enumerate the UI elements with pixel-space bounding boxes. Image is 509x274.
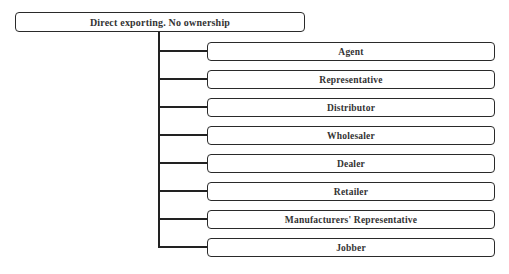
child-node-label: Retailer [334,187,368,197]
branch-connector [158,218,208,220]
branch-connector [158,106,208,108]
child-node-wholesaler: Wholesaler [207,126,495,145]
child-node-label: Manufacturers' Representative [285,215,417,225]
child-node-agent: Agent [207,42,495,61]
child-node-manufacturers-representative: Manufacturers' Representative [207,210,495,229]
child-node-label: Jobber [336,243,366,253]
child-node-label: Dealer [337,159,365,169]
child-node-label: Wholesaler [327,131,375,141]
child-node-dealer: Dealer [207,154,495,173]
branch-connector [158,78,208,80]
child-node-retailer: Retailer [207,182,495,201]
child-node-label: Agent [338,47,363,57]
child-node-label: Representative [319,75,382,85]
child-node-distributor: Distributor [207,98,495,117]
root-node: Direct exporting. No ownership [15,12,305,32]
root-node-label: Direct exporting. No ownership [90,17,230,28]
child-node-label: Distributor [327,103,375,113]
trunk-connector [158,32,160,248]
branch-connector [158,246,208,248]
child-node-representative: Representative [207,70,495,89]
branch-connector [158,190,208,192]
branch-connector [158,162,208,164]
branch-connector [158,50,208,52]
child-node-jobber: Jobber [207,238,495,257]
branch-connector [158,134,208,136]
